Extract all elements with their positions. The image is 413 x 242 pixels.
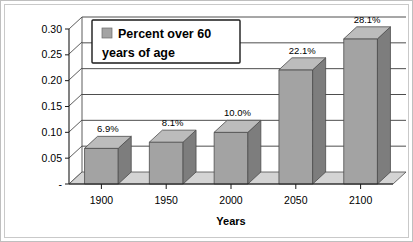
data-label: 8.1% [162,117,184,128]
legend-swatch [102,28,112,38]
bar-front-face [279,70,313,184]
bar-front-face [344,39,378,184]
bar-front-face [214,132,248,184]
legend[interactable]: Percent over 60 years of age [92,20,240,63]
x-tick-label: 2050 [284,194,308,206]
legend-label-line1: Percent over 60 [118,27,211,41]
x-tick-label: 2100 [349,194,373,206]
chart-frame: -0.050.100.150.200.250.30 19001950200020… [0,0,413,242]
bar-chart-svg: -0.050.100.150.200.250.30 19001950200020… [7,7,406,235]
y-tick-label: 0.25 [42,48,63,60]
data-label: 28.1% [354,14,381,25]
legend-label-line2: years of age [102,46,175,60]
y-tick-label: 0.20 [42,74,63,86]
x-axis-ticks: 19001950200020502100 [90,184,373,206]
x-axis-title: Years [216,215,245,227]
bar-front-face [85,148,119,184]
y-axis-ticks: -0.050.100.150.200.250.30 [42,23,69,190]
bar-side-face [377,27,390,184]
data-label: 6.9% [97,123,119,134]
bar-side-face [313,58,326,184]
x-tick-label: 1900 [90,194,114,206]
chart-canvas: -0.050.100.150.200.250.30 19001950200020… [7,7,406,235]
y-tick-label: 0.10 [42,126,63,138]
data-label: 22.1% [289,45,316,56]
bar-front-face [149,142,183,184]
data-label: 10.0% [224,107,251,118]
y-tick-label: - [59,178,63,190]
y-tick-label: 0.05 [42,152,63,164]
y-tick-label: 0.15 [42,100,63,112]
y-tick-label: 0.30 [42,23,63,35]
x-tick-label: 2000 [219,194,243,206]
x-tick-label: 1950 [155,194,179,206]
